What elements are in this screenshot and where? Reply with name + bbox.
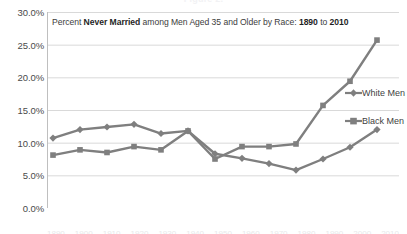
data-point-diamond [130,121,137,128]
data-point-diamond [265,160,272,167]
chart-title: Percent Never Married among Men Aged 35 … [52,17,382,27]
diamond-marker-icon [345,88,362,98]
x-axis-tick-label: 1950 [214,229,232,234]
legend-item-black-men[interactable]: Black Men [345,116,404,126]
data-point-square [239,144,245,150]
legend-label-black-men: Black Men [362,116,404,126]
legend-item-white-men[interactable]: White Men [345,88,405,98]
data-point-square [104,150,110,156]
data-point-square [293,141,299,147]
chart-title-prefix: Percent [52,17,84,27]
data-point-square [77,147,83,153]
chart-svg [47,12,399,208]
data-point-diamond [49,134,56,141]
gridlines [47,13,399,209]
x-axis-tick-label: 1910 [103,229,121,234]
data-point-square [158,147,164,153]
series-line [53,40,377,159]
data-point-diamond [292,167,299,174]
x-axis-tick-label: 1890 [47,229,65,234]
data-point-diamond [319,155,326,162]
data-point-square [374,37,380,43]
y-axis-tick-label: 15.0% [0,105,44,116]
cut-off-figure-header: Figure 2. [0,0,407,4]
data-point-diamond [76,126,83,133]
y-axis: 30.0%25.0%20.0%15.0%10.0%5.0%0.0% [0,0,44,234]
y-axis-tick-label: 25.0% [0,39,44,50]
chart-title-emphasis-start-year: 1890 [299,17,318,27]
data-point-diamond [103,123,110,130]
data-point-square [266,144,272,150]
chart-container: Figure 2. 30.0%25.0%20.0%15.0%10.0%5.0%0… [0,0,407,234]
x-axis-tick-label: 2000 [353,229,371,234]
data-point-diamond [238,155,245,162]
y-axis-tick-label: 30.0% [0,7,44,18]
legend-label-white-men: White Men [362,88,405,98]
series-layer [49,37,380,173]
x-axis-tick-label: 1990 [325,229,343,234]
series-white-men [49,121,380,174]
data-point-square [131,144,137,150]
x-axis-tick-label: 1920 [131,229,149,234]
x-axis-tick-label: 1960 [242,229,260,234]
x-axis-tick-label: 1930 [158,229,176,234]
x-axis-tick-label: 2010 [381,229,399,234]
series-line [53,124,377,170]
data-point-square [320,103,326,109]
y-axis-tick-label: 5.0% [0,170,44,181]
y-axis-tick-label: 10.0% [0,137,44,148]
plot-area [47,12,399,208]
data-point-diamond [157,130,164,137]
chart-title-joiner: to [318,17,330,27]
x-axis-tick-label: 1970 [270,229,288,234]
y-axis-tick-label: 0.0% [0,203,44,214]
chart-title-emphasis-end-year: 2010 [330,17,349,27]
x-axis-tick-label: 1900 [75,229,93,234]
y-axis-tick-label: 20.0% [0,72,44,83]
data-point-square [347,78,353,84]
chart-title-middle: among Men Aged 35 and Older by Race: [140,17,299,27]
data-point-square [185,128,191,134]
data-point-square [50,152,56,158]
data-point-square [212,156,218,162]
chart-title-emphasis-never-married: Never Married [84,17,141,27]
x-axis-tick-label: 1980 [298,229,316,234]
square-marker-icon [345,116,362,126]
x-axis-labels-cutoff: 1890190019101920193019401950196019701980… [47,229,399,234]
x-axis-tick-label: 1940 [186,229,204,234]
